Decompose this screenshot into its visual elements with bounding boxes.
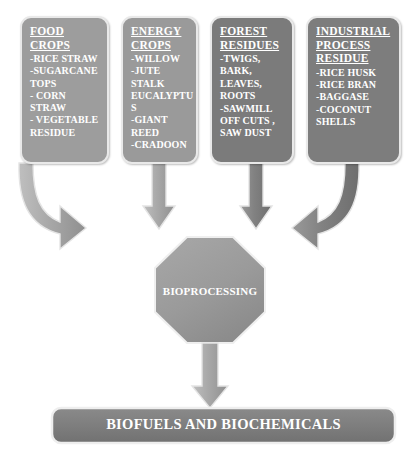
arrow-straight-forest bbox=[240, 163, 272, 229]
card-industrial-process-residue-title: INDUSTRIAL PROCESS RESIDUE bbox=[316, 25, 394, 66]
flow-diagram: FOOD CROPS -RICE STRAW -SUGARCANE TOPS -… bbox=[0, 0, 417, 456]
arrow-straight-energy bbox=[143, 163, 175, 229]
arrow-curved-right bbox=[292, 163, 359, 249]
card-food-crops-title: FOOD CROPS bbox=[30, 25, 102, 52]
card-food-crops: FOOD CROPS -RICE STRAW -SUGARCANE TOPS -… bbox=[20, 16, 109, 164]
card-food-crops-items: -RICE STRAW -SUGARCANE TOPS - CORN STRAW… bbox=[30, 53, 102, 139]
card-energy-crops: ENERGY CROPS -WILLOW -JUTE STALK EUCALYP… bbox=[121, 16, 198, 164]
card-energy-crops-items: -WILLOW -JUTE STALK EUCALYPTU S -GIANT R… bbox=[131, 53, 191, 151]
card-industrial-process-residue: INDUSTRIAL PROCESS RESIDUE -RICE HUSK -R… bbox=[306, 16, 401, 164]
card-energy-crops-title: ENERGY CROPS bbox=[131, 25, 191, 52]
arrow-curved-left bbox=[19, 163, 86, 249]
output-label: BIOFUELS AND BIOCHEMICALS bbox=[52, 416, 395, 433]
card-forest-residues-items: -TWIGS, BARK, LEAVES, ROOTS -SAWMILL OFF… bbox=[220, 53, 287, 140]
bioprocessing-label: BIOPROCESSING bbox=[155, 285, 265, 297]
card-industrial-process-residue-items: -RICE HUSK -RICE BRAN -BAGGASE -COCONUT … bbox=[316, 67, 394, 129]
card-forest-residues-title: FOREST RESIDUES bbox=[220, 25, 287, 52]
card-forest-residues: FOREST RESIDUES -TWIGS, BARK, LEAVES, RO… bbox=[210, 16, 294, 164]
arrow-process-to-output bbox=[192, 343, 228, 408]
